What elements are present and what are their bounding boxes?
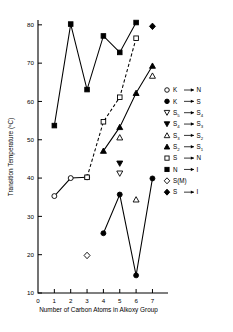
x-axis-title: Number of Carbon Atoms in Alkoxy Group — [39, 306, 158, 314]
legend-label: S4 — [173, 120, 180, 129]
data-point — [133, 90, 139, 95]
legend-marker — [165, 88, 170, 93]
series-line — [103, 66, 152, 151]
data-point — [134, 273, 139, 278]
legend-label-target: S1 — [197, 143, 204, 152]
legend-arrow-head-icon — [191, 122, 194, 125]
data-point — [117, 95, 122, 100]
legend-label: K — [173, 98, 178, 105]
x-axis-tick-label: 7 — [151, 297, 155, 304]
legend-label-target: S2 — [197, 132, 204, 141]
y-axis-tick-label: 20 — [27, 251, 34, 258]
data-point — [68, 176, 73, 181]
data-point — [117, 171, 123, 176]
legend-arrow-head-icon — [191, 111, 194, 114]
legend-marker — [164, 122, 170, 127]
legend-arrow-head-icon — [191, 100, 194, 103]
legend-arrow-head-icon — [191, 145, 194, 148]
data-point — [150, 176, 155, 181]
y-axis-tick-label: 10 — [27, 289, 34, 296]
legend-marker — [164, 133, 170, 138]
legend-label: N — [173, 166, 178, 173]
legend-marker — [165, 156, 169, 160]
data-point — [100, 148, 106, 153]
data-point — [52, 194, 57, 199]
legend-label: S — [173, 188, 177, 195]
legend-marker — [165, 167, 169, 171]
y-axis-tick-label: 40 — [27, 174, 34, 181]
legend-marker — [164, 189, 170, 195]
legend-label: S2 — [173, 143, 180, 152]
data-point — [149, 73, 155, 78]
x-axis-tick-label: 1 — [53, 297, 57, 304]
legend-marker — [164, 144, 170, 149]
data-point — [117, 124, 123, 129]
legend-marker — [165, 99, 170, 104]
legend-label-target: I — [197, 166, 199, 173]
data-point — [149, 63, 155, 68]
legend-label: S(M) — [173, 177, 187, 185]
legend-marker — [164, 178, 170, 184]
transition-temperature-scatter-chart: 102030405060708001234567Number of Carbon… — [0, 0, 233, 332]
x-axis-tick-label: 3 — [85, 297, 89, 304]
data-point — [117, 192, 122, 197]
y-axis-tick-label: 30 — [27, 213, 34, 220]
data-point — [134, 20, 139, 25]
legend-label-target: I — [197, 188, 199, 195]
legend-arrow-head-icon — [191, 156, 194, 159]
x-axis-tick-label: 4 — [102, 297, 106, 304]
legend-label-target: S — [197, 98, 201, 105]
legend-arrow-head-icon — [191, 168, 194, 171]
series-line — [103, 178, 152, 275]
legend-label-target: S4 — [197, 109, 204, 118]
data-point — [134, 36, 139, 41]
legend-label-target: S3 — [197, 120, 204, 129]
data-point — [85, 87, 90, 92]
x-axis-tick-label: 6 — [134, 297, 138, 304]
chart-figure: 102030405060708001234567Number of Carbon… — [0, 0, 233, 332]
x-axis-tick-label: 0 — [36, 297, 40, 304]
x-axis-tick-label: 5 — [118, 297, 122, 304]
data-point — [85, 175, 90, 180]
data-point — [68, 22, 73, 27]
data-point — [84, 252, 90, 258]
legend-arrow-head-icon — [191, 88, 194, 91]
data-point — [117, 135, 123, 140]
y-axis-tick-label: 60 — [27, 98, 34, 105]
legend-arrow-head-icon — [191, 134, 194, 137]
legend-arrow-head-icon — [191, 190, 194, 193]
data-point — [52, 123, 57, 128]
legend-marker — [164, 110, 170, 115]
data-point — [133, 197, 139, 202]
data-point — [149, 23, 155, 30]
legend-label: S — [173, 154, 177, 161]
legend-label: K — [173, 86, 178, 93]
y-axis-tick-label: 70 — [27, 59, 34, 66]
plot-axes — [38, 20, 168, 293]
data-point — [101, 231, 106, 236]
y-axis-title: Transition Temperature (oC) — [7, 118, 16, 196]
legend-label-target: N — [197, 154, 202, 161]
data-point — [117, 161, 123, 166]
series-line — [54, 23, 136, 126]
data-point — [101, 34, 106, 39]
x-axis-tick-label: 2 — [69, 297, 73, 304]
legend-label: S3 — [173, 132, 180, 141]
legend-label-target: N — [197, 86, 202, 93]
data-point — [117, 50, 122, 55]
data-point — [101, 119, 106, 124]
y-axis-tick-label: 50 — [27, 136, 34, 143]
y-axis-tick-label: 80 — [27, 21, 34, 28]
legend-label: S5 — [173, 109, 180, 118]
